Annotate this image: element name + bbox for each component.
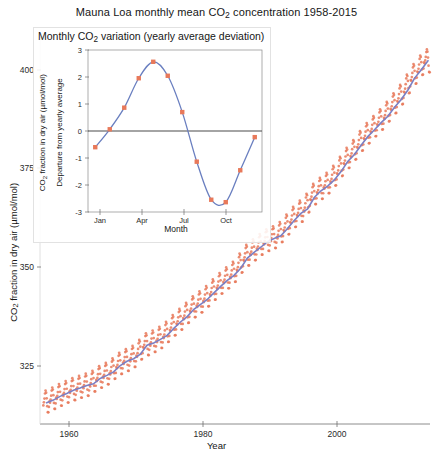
inset-outer-y-axis-label: CO2 fraction in dry air (µmol/mol) bbox=[38, 68, 47, 198]
inset-ytick-label-neg3: -3 bbox=[64, 208, 82, 217]
main-ytick-label-325: 325 bbox=[0, 361, 34, 371]
inset-title-post: variation (yearly average deviation) bbox=[98, 30, 264, 42]
inset-x-axis-label: Month bbox=[86, 224, 266, 234]
inset-title: Monthly CO2 variation (yearly average de… bbox=[38, 30, 264, 44]
figure: Mauna Loa monthly mean CO2 concentration… bbox=[0, 0, 433, 458]
main-ylabel-post: fraction in dry air (µmol/mol) bbox=[8, 183, 19, 304]
inset-ytick-label-3: 3 bbox=[64, 46, 82, 55]
inset-ytick-label-neg2: -2 bbox=[64, 181, 82, 190]
inset-outer-ylabel-post: fraction in dry air (µmol/mol) bbox=[38, 74, 47, 176]
inset-ytick-label-2: 2 bbox=[64, 73, 82, 82]
main-xtick-label-2000: 2000 bbox=[317, 429, 357, 439]
inset-outer-ylabel-pre: CO bbox=[38, 179, 47, 191]
main-ytick-label-400: 400 bbox=[0, 65, 34, 75]
inset-ytick-label-neg1: -1 bbox=[64, 154, 82, 163]
main-y-axis-label: CO2 fraction in dry air (µmol/mol) bbox=[8, 152, 21, 352]
main-xtick-label-1980: 1980 bbox=[183, 429, 223, 439]
inset-outer-ylabel-subscript: 2 bbox=[41, 176, 48, 179]
main-x-axis-label: Year bbox=[0, 440, 433, 451]
inset-ytick-label-0: 0 bbox=[64, 127, 82, 136]
main-ylabel-pre: CO bbox=[8, 308, 19, 322]
inset-title-pre: Monthly CO bbox=[38, 30, 93, 42]
main-xtick-label-1960: 1960 bbox=[49, 429, 89, 439]
main-ylabel-subscript: 2 bbox=[11, 303, 20, 307]
inset-ytick-label-1: 1 bbox=[64, 100, 82, 109]
inset-y-axis-label: Departure from yearly average bbox=[55, 68, 64, 198]
